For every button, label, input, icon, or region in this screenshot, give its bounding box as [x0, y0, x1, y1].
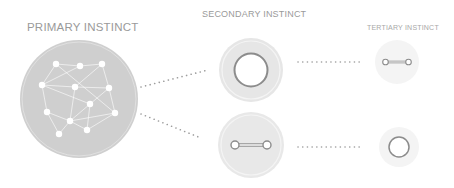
ring-icon	[235, 54, 268, 87]
primary-network-node	[20, 40, 138, 158]
tertiary-dumbbell-node	[375, 40, 419, 84]
secondary-dumbbell-node	[218, 112, 284, 178]
instinct-diagram	[0, 0, 454, 188]
ring-icon	[389, 137, 409, 157]
tertiary-ring-node	[379, 127, 419, 167]
secondary-ring-node	[219, 38, 283, 102]
connector-primary-to-secondary-bottom	[141, 114, 201, 138]
connector-primary-to-secondary-top	[141, 70, 208, 87]
